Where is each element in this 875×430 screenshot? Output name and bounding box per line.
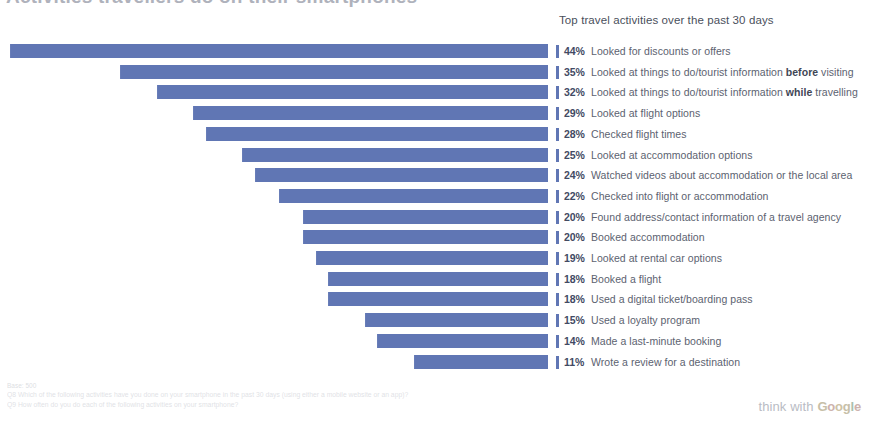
activity-label: Looked at rental car options: [591, 252, 722, 264]
list-item: 19%Looked at rental car options: [556, 251, 722, 265]
percentage-value: 29%: [564, 107, 591, 119]
bar-row: [0, 355, 549, 369]
bar-row: [0, 210, 549, 224]
bar: [316, 251, 548, 265]
bar-tick-icon: [556, 149, 559, 162]
bar-tick-icon: [556, 45, 559, 58]
bar-row: [0, 272, 549, 286]
activity-label: Booked accommodation: [591, 231, 705, 243]
list-item: 35%Looked at things to do/tourist inform…: [556, 65, 854, 79]
percentage-value: 44%: [564, 45, 591, 57]
activity-label: Made a last-minute booking: [591, 335, 721, 347]
bar: [10, 44, 548, 58]
bar-row: [0, 85, 549, 99]
bar-row: [0, 44, 549, 58]
list-item: 18%Booked a flight: [556, 272, 661, 286]
footnote-q8: Q8 Which of the following activities hav…: [7, 390, 408, 400]
bar: [328, 272, 548, 286]
bar-tick-icon: [556, 169, 559, 182]
google-letter-g2: g: [843, 399, 851, 414]
activity-label: Watched videos about accommodation or th…: [591, 169, 852, 181]
percentage-value: 24%: [564, 169, 591, 181]
list-item: 18%Used a digital ticket/boarding pass: [556, 292, 753, 306]
bar-tick-icon: [556, 356, 559, 369]
list-item: 22%Checked into flight or accommodation: [556, 189, 768, 203]
list-item: 11%Wrote a review for a destination: [556, 355, 740, 369]
percentage-value: 15%: [564, 314, 591, 326]
list-item: 28%Checked flight times: [556, 127, 687, 141]
bar: [328, 292, 548, 306]
page-title: Activities travellers do on their smartp…: [6, 0, 546, 12]
think-with-google-logo: think with Google: [758, 399, 861, 414]
percentage-value: 11%: [564, 356, 591, 368]
bar-row: [0, 230, 549, 244]
footnote-base: Base: 500: [7, 381, 408, 390]
bar-row: [0, 334, 549, 348]
bar-tick-icon: [556, 86, 559, 99]
activity-label: Looked at things to do/tourist informati…: [591, 86, 858, 98]
bar-tick-icon: [556, 231, 559, 244]
bar-tick-icon: [556, 252, 559, 265]
bar-tick-icon: [556, 273, 559, 286]
percentage-value: 14%: [564, 335, 591, 347]
bar-tick-icon: [556, 107, 559, 120]
bar: [157, 85, 548, 99]
bar: [193, 106, 548, 120]
list-item: 14%Made a last-minute booking: [556, 334, 721, 348]
activity-label: Looked for discounts or offers: [591, 45, 731, 57]
bar: [255, 168, 548, 182]
bar-row: [0, 65, 549, 79]
bar-tick-icon: [556, 293, 559, 306]
percentage-value: 22%: [564, 190, 591, 202]
google-letter-o2: o: [835, 399, 843, 414]
bar-row: [0, 251, 549, 265]
bar: [206, 127, 548, 141]
bar: [279, 189, 548, 203]
percentage-value: 28%: [564, 128, 591, 140]
bar: [414, 355, 549, 369]
activity-label: Looked at accommodation options: [591, 149, 753, 161]
chart-heading: Top travel activities over the past 30 d…: [559, 14, 774, 26]
footnotes: Base: 500 Q8 Which of the following acti…: [7, 381, 408, 409]
bar-row: [0, 168, 549, 182]
percentage-value: 35%: [564, 66, 591, 78]
list-item: 20%Booked accommodation: [556, 230, 705, 244]
list-item: 24%Watched videos about accommodation or…: [556, 168, 852, 182]
activity-label: Booked a flight: [591, 273, 661, 285]
bar-tick-icon: [556, 128, 559, 141]
bar-tick-icon: [556, 66, 559, 79]
list-item: 32%Looked at things to do/tourist inform…: [556, 85, 858, 99]
bar-chart: [0, 44, 549, 376]
list-item: 25%Looked at accommodation options: [556, 148, 753, 162]
bar-row: [0, 127, 549, 141]
activity-label: Used a digital ticket/boarding pass: [591, 293, 753, 305]
percentage-value: 20%: [564, 231, 591, 243]
brand-think: think: [758, 399, 786, 414]
google-letter-o1: o: [827, 399, 835, 414]
bar-tick-icon: [556, 335, 559, 348]
bar-tick-icon: [556, 211, 559, 224]
percentage-value: 18%: [564, 293, 591, 305]
percentage-value: 25%: [564, 149, 591, 161]
list-item: 44%Looked for discounts or offers: [556, 44, 731, 58]
bar-tick-icon: [556, 314, 559, 327]
list-item: 29%Looked at flight options: [556, 106, 700, 120]
activity-label: Looked at flight options: [591, 107, 700, 119]
brand-with: with: [790, 399, 814, 414]
bar-row: [0, 148, 549, 162]
google-letter-e: e: [854, 399, 861, 414]
bar: [303, 230, 548, 244]
activity-label: Found address/contact information of a t…: [591, 211, 841, 223]
bar-tick-icon: [556, 190, 559, 203]
google-letter-g: G: [817, 399, 827, 414]
list-item: 15%Used a loyalty program: [556, 313, 700, 327]
activity-label: Looked at things to do/tourist informati…: [591, 66, 854, 78]
activity-label: Wrote a review for a destination: [591, 356, 740, 368]
footnote-q9: Q9 How often do you do each of the follo…: [7, 400, 408, 410]
bar: [377, 334, 548, 348]
bar-row: [0, 106, 549, 120]
bar: [303, 210, 548, 224]
percentage-value: 18%: [564, 273, 591, 285]
activity-label: Used a loyalty program: [591, 314, 700, 326]
list-item: 20%Found address/contact information of …: [556, 210, 841, 224]
